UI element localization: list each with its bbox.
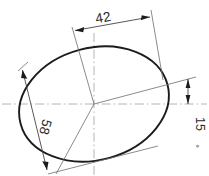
tilt-angle-arrow-top [186, 79, 191, 88]
major-axis-label: 58 [36, 118, 55, 137]
minor-axis-extension-line-right [151, 10, 163, 80]
minor-axis-extension-line-left [72, 27, 94, 104]
minor-axis-arrow-right [141, 15, 150, 20]
major-axis-extension-line-top [18, 62, 28, 71]
major-axis-arrow-top [21, 70, 27, 79]
tilt-angle-arrow-bottom [186, 95, 191, 104]
ellipse-dimension-drawing: 42 58 15 ° [0, 0, 209, 176]
minor-axis-arrow-left [75, 27, 84, 32]
minor-axis-label: 42 [94, 9, 112, 26]
tilt-axis-reference-line [94, 77, 196, 104]
minor-axis-dimension-line [75, 17, 150, 31]
technical-drawing-canvas: 42 58 15 ° [0, 0, 209, 176]
tilt-angle-label: 15 [193, 117, 207, 131]
degree-symbol: ° [190, 144, 200, 148]
major-axis-arrow-bottom [42, 161, 48, 170]
